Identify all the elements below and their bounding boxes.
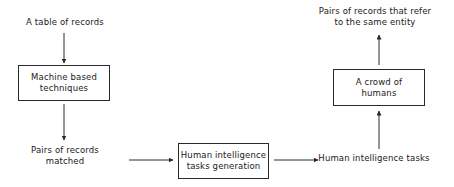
node-crowd-of-humans-label: A crowd of humans <box>356 77 402 99</box>
node-machine-based-techniques: Machine based techniques <box>18 65 110 101</box>
node-human-intelligence-tasks-generation: Human intelligence tasks generation <box>178 143 269 179</box>
node-human-intelligence-tasks: Human intelligence tasks <box>300 153 448 164</box>
node-pairs-of-records-matched: Pairs of records matched <box>10 145 120 167</box>
flowchart-diagram: A table of records Machine based techniq… <box>0 0 454 187</box>
node-machine-based-techniques-label: Machine based techniques <box>31 72 97 94</box>
node-crowd-of-humans: A crowd of humans <box>333 69 425 106</box>
node-pairs-of-records-same-entity: Pairs of records that refer to the same … <box>296 6 454 28</box>
node-table-of-records: A table of records <box>10 17 120 28</box>
node-human-intelligence-tasks-generation-label: Human intelligence tasks generation <box>181 150 266 172</box>
